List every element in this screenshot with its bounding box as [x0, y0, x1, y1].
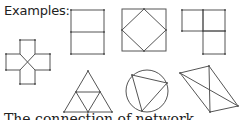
figure-cross — [5, 39, 51, 85]
figure-square-with-diamond — [121, 8, 167, 52]
figure-l-shape — [181, 9, 226, 55]
figure-subdivided-triangle — [63, 70, 113, 113]
figure-rectangle-with-midline — [70, 9, 105, 55]
example-figures — [0, 0, 239, 120]
figure-circle-with-triangle — [126, 70, 168, 112]
figure-quadrilateral — [179, 65, 239, 113]
body-text-clipped: The connection of network — [4, 111, 194, 120]
